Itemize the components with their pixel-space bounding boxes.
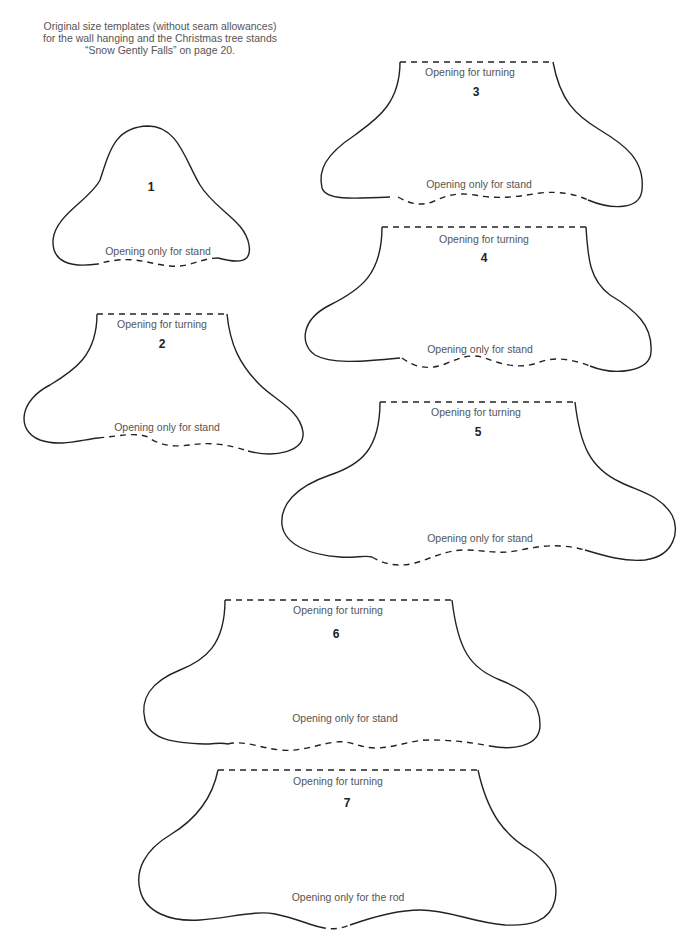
template-1-bottom-label: Opening only for stand	[105, 245, 211, 257]
template-7-number: 7	[344, 796, 351, 810]
template-5-number: 5	[475, 425, 482, 439]
template-6-top-label: Opening for turning	[293, 604, 383, 616]
template-7-shape	[139, 770, 556, 929]
template-7-bottom-label: Opening only for the rod	[292, 891, 405, 903]
template-6-bottom-label: Opening only for stand	[292, 712, 398, 724]
template-5-bottom-label: Opening only for stand	[427, 532, 533, 544]
template-2-top-label: Opening for turning	[117, 318, 207, 330]
template-6-shape	[144, 600, 540, 750]
template-2-bottom-label: Opening only for stand	[114, 421, 220, 433]
template-6-number: 6	[333, 627, 340, 641]
template-3-top-label: Opening for turning	[425, 66, 515, 78]
template-4-number: 4	[481, 251, 488, 265]
template-2-number: 2	[159, 337, 166, 351]
template-3-bottom-label: Opening only for stand	[426, 178, 532, 190]
template-5-top-label: Opening for turning	[431, 406, 521, 418]
template-3-number: 3	[473, 85, 480, 99]
template-4-top-label: Opening for turning	[439, 233, 529, 245]
template-7-top-label: Opening for turning	[293, 775, 383, 787]
template-4-bottom-label: Opening only for stand	[427, 343, 533, 355]
template-1-number: 1	[148, 180, 155, 194]
